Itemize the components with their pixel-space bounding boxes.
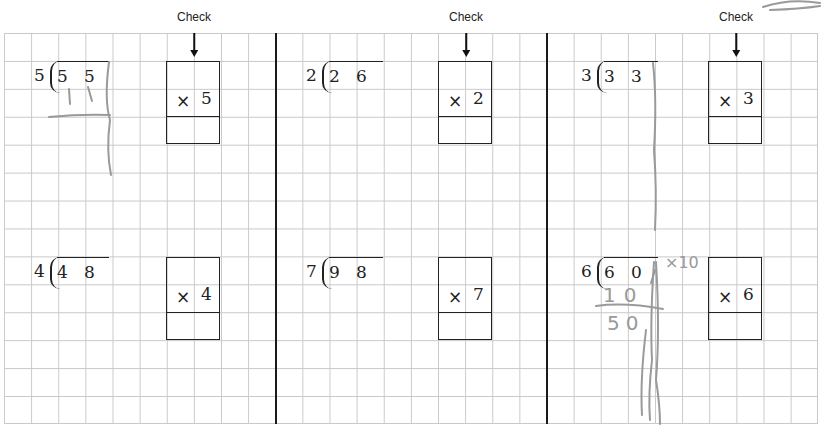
handwritten-remainder: 50 bbox=[607, 311, 644, 335]
handwritten-subtract: 10 bbox=[603, 283, 644, 307]
pencil-marks bbox=[0, 0, 821, 433]
handwritten-note: ×10 bbox=[665, 253, 699, 272]
